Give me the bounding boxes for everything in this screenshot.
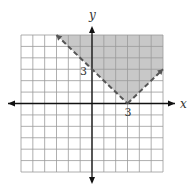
x-axis-arrow-right — [168, 101, 175, 107]
y-axis-arrow-up — [89, 26, 95, 33]
y-axis-label: y — [88, 8, 96, 22]
y-intercept-label: 3 — [80, 65, 87, 78]
graph: x y 3 3 — [0, 0, 191, 193]
vertex-x-label: 3 — [125, 106, 132, 119]
y-axis-arrow-down — [89, 177, 95, 184]
x-axis-arrow-left — [8, 101, 15, 107]
x-axis-label: x — [180, 97, 187, 111]
